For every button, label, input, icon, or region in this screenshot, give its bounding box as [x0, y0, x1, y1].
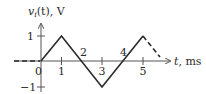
x-tick-label-2: 2 — [80, 46, 87, 59]
x-tick-label-5: 5 — [140, 65, 147, 78]
x-axis-label: t, ms — [174, 55, 202, 68]
x-tick-label-4: 4 — [120, 46, 127, 59]
y-tick-label-1: 1 — [27, 30, 34, 43]
x-tick-label-0: 0 — [35, 65, 42, 78]
y-axis-label: vi(t), V — [28, 5, 66, 19]
waveform-dashed-continuation — [143, 36, 160, 57]
x-tick-label-1: 1 — [58, 65, 65, 78]
x-tick-label-3: 3 — [99, 65, 106, 78]
triangle-wave-chart: vi(t), V 1 −1 0 1 2 3 4 5 t, ms — [0, 0, 206, 94]
y-tick-label-neg1: −1 — [20, 81, 36, 94]
